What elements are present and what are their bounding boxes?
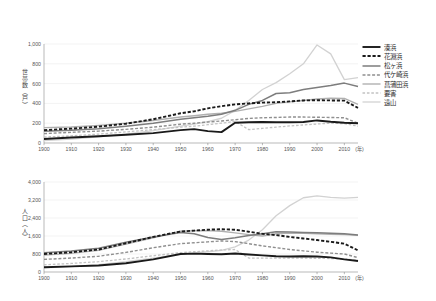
x-tick-population-1970: 1970 bbox=[229, 275, 241, 281]
legend-label-shobutahama: 菖蒲田浜 bbox=[384, 80, 408, 89]
legend-label-matsugahama: 松ヶ浜 bbox=[384, 61, 402, 70]
x-tick-population-1980: 1980 bbox=[257, 275, 269, 281]
series-line-population-shobutahama bbox=[44, 231, 358, 256]
x-tick-population-1900: 1900 bbox=[38, 275, 50, 281]
chart-population: 08001,6002,4003,2004,0001900191019201930… bbox=[0, 172, 436, 297]
y-tick-households-1000: 1,000 bbox=[28, 41, 41, 47]
y-tick-population-4000: 4,000 bbox=[28, 179, 41, 185]
legend-swatch-toyama bbox=[362, 98, 381, 106]
y-tick-households-800: 800 bbox=[32, 61, 41, 67]
legend-item-shobutahama[interactable]: 菖蒲田浜 bbox=[362, 80, 436, 89]
figure-root: 02004006008001,0001900191019201930194019… bbox=[0, 0, 436, 301]
y-tick-households-400: 400 bbox=[32, 100, 41, 106]
x-axis-unit-population: (年) bbox=[355, 274, 364, 282]
x-tick-population-1940: 1940 bbox=[147, 275, 159, 281]
legend-item-matsugahama[interactable]: 松ヶ浜 bbox=[362, 61, 436, 70]
x-tick-population-2000: 2000 bbox=[311, 275, 323, 281]
x-axis-unit-households: (年) bbox=[355, 145, 364, 153]
y-tick-households-200: 200 bbox=[32, 120, 41, 126]
x-tick-population-1960: 1960 bbox=[202, 275, 214, 281]
x-tick-population-1950: 1950 bbox=[175, 275, 187, 281]
x-tick-households-1930: 1930 bbox=[120, 146, 132, 152]
x-tick-population-1990: 1990 bbox=[284, 275, 296, 281]
legend-item-hanabuchihama[interactable]: 花淵浜 bbox=[362, 52, 436, 61]
legend-item-toyama[interactable]: 遠山 bbox=[362, 98, 436, 107]
legend-swatch-minatohama bbox=[362, 43, 381, 51]
chart-population-canvas: 08001,6002,4003,2004,0001900191019201930… bbox=[0, 172, 436, 297]
y-tick-households-600: 600 bbox=[32, 81, 41, 87]
x-tick-households-1920: 1920 bbox=[93, 146, 105, 152]
legend-swatch-yogasakihama bbox=[362, 71, 381, 79]
x-tick-households-2000: 2000 bbox=[311, 146, 323, 152]
legend-swatch-matsugahama bbox=[362, 62, 381, 70]
legend-swatch-shobutahama bbox=[362, 80, 381, 88]
legend-item-yogasakihama[interactable]: 代ケ崎浜 bbox=[362, 71, 436, 80]
x-tick-population-2010: 2010 bbox=[339, 275, 351, 281]
legend-item-minatohama[interactable]: 湊浜 bbox=[362, 43, 436, 52]
legend-label-yogasakihama: 代ケ崎浜 bbox=[384, 70, 408, 79]
x-tick-households-2010: 2010 bbox=[339, 146, 351, 152]
legend-label-toyama: 遠山 bbox=[384, 98, 396, 107]
y-axis-label-households-text: 世帯数（戸） bbox=[21, 69, 30, 108]
x-tick-households-1910: 1910 bbox=[66, 146, 78, 152]
x-tick-households-1980: 1980 bbox=[257, 146, 269, 152]
y-tick-population-800: 800 bbox=[32, 251, 41, 257]
x-tick-households-1950: 1950 bbox=[175, 146, 187, 152]
series-line-population-minatohama bbox=[44, 254, 358, 268]
x-tick-households-1960: 1960 bbox=[202, 146, 214, 152]
chart-legend: 湊浜花淵浜松ヶ浜代ケ崎浜菖蒲田浜要害遠山 bbox=[362, 43, 436, 107]
x-tick-households-1970: 1970 bbox=[229, 146, 241, 152]
y-tick-households-0: 0 bbox=[38, 140, 41, 146]
y-tick-population-0: 0 bbox=[38, 269, 41, 275]
x-tick-households-1940: 1940 bbox=[147, 146, 159, 152]
x-tick-population-1910: 1910 bbox=[66, 275, 78, 281]
legend-item-yogai[interactable]: 要害 bbox=[362, 89, 436, 98]
x-tick-population-1930: 1930 bbox=[120, 275, 132, 281]
legend-label-hanabuchihama: 花淵浜 bbox=[384, 52, 402, 61]
legend-swatch-yogai bbox=[362, 89, 381, 97]
y-axis-label-population: 人口（人） bbox=[18, 196, 32, 252]
legend-label-yogai: 要害 bbox=[384, 89, 396, 98]
legend-label-minatohama: 湊浜 bbox=[384, 43, 396, 52]
legend-swatch-hanabuchihama bbox=[362, 52, 381, 60]
y-axis-label-population-text: 人口（人） bbox=[21, 208, 30, 241]
y-axis-label-households: 世帯数（戸） bbox=[18, 58, 32, 118]
x-tick-households-1990: 1990 bbox=[284, 146, 296, 152]
x-tick-households-1900: 1900 bbox=[38, 146, 50, 152]
x-tick-population-1920: 1920 bbox=[93, 275, 105, 281]
